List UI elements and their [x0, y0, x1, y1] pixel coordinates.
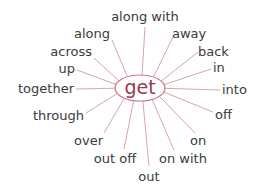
particle-label-through: through — [33, 108, 84, 123]
particle-label-on: on — [190, 133, 206, 148]
particle-label-on-with: on with — [159, 151, 207, 166]
spoke-line — [86, 93, 117, 113]
spoke-line — [161, 52, 198, 81]
particle-label-up: up — [59, 61, 76, 76]
spoke-line — [142, 27, 145, 75]
spoke-line — [76, 88, 115, 89]
particle-label-back: back — [198, 44, 229, 59]
particle-label-across: across — [50, 44, 92, 59]
spoke-line — [124, 101, 134, 149]
spoke-line — [164, 69, 211, 85]
particle-label-off: off — [215, 107, 233, 122]
spoke-line — [153, 35, 174, 77]
center-word-label: get — [124, 76, 155, 98]
spoke-line — [143, 101, 149, 166]
particle-label-away: away — [172, 26, 207, 41]
particle-label-along-with: along with — [111, 9, 179, 24]
spoke-line — [112, 40, 127, 77]
particle-label-out: out — [138, 169, 159, 184]
particle-label-together: together — [18, 81, 75, 96]
particle-label-in: in — [213, 60, 225, 75]
spoke-line — [104, 98, 124, 133]
particle-label-into: into — [222, 82, 247, 97]
particle-label-over: over — [74, 133, 104, 148]
spoke-line — [152, 99, 174, 150]
particle-label-along: along — [74, 26, 110, 41]
get-word-wheel-diagram: get along withalongawayacrossbackupintog… — [0, 0, 261, 188]
particle-label-out-off: out off — [94, 151, 137, 166]
spoke-line — [165, 88, 220, 90]
